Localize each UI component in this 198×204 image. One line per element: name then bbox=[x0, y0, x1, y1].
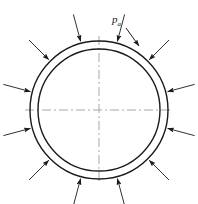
pressure-arrow bbox=[73, 14, 80, 41]
pressure-arrow bbox=[29, 40, 49, 60]
pressure-arrow bbox=[73, 179, 80, 204]
pressure-arrow bbox=[168, 128, 195, 135]
pressure-symbol-label: pa bbox=[112, 14, 121, 28]
figure-container: pa bbox=[0, 0, 198, 204]
pressure-arrow bbox=[168, 84, 195, 91]
pressure-arrow bbox=[149, 160, 169, 180]
pressure-arrow bbox=[117, 179, 124, 204]
pressure-arrow bbox=[29, 160, 49, 180]
pressure-arrow bbox=[149, 40, 169, 60]
pressure-ring-diagram bbox=[0, 0, 198, 204]
pressure-subscript: a bbox=[118, 20, 122, 28]
pressure-arrow bbox=[3, 128, 30, 135]
pressure-arrow bbox=[3, 84, 30, 91]
pressure-leader-line bbox=[126, 28, 139, 46]
